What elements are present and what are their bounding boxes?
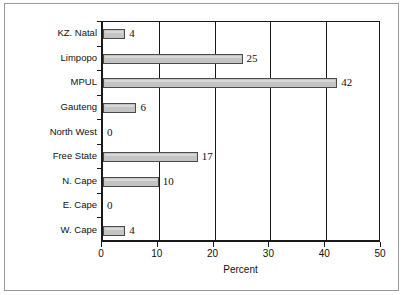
x-axis-tick bbox=[268, 242, 269, 247]
bar bbox=[103, 226, 125, 236]
bar bbox=[103, 29, 125, 39]
plot-area: 4254260171004 bbox=[101, 21, 380, 242]
bar-value-label: 6 bbox=[140, 102, 146, 112]
x-axis-tick bbox=[380, 242, 381, 247]
bar-value-label: 17 bbox=[202, 151, 213, 161]
category-label: KZ. Natal bbox=[11, 27, 97, 38]
category-label: Limpopo bbox=[11, 52, 97, 63]
x-axis-tick-label: 0 bbox=[98, 248, 104, 259]
category-label: N. Cape bbox=[11, 175, 97, 186]
category-label: North West bbox=[11, 126, 97, 137]
bar bbox=[103, 103, 136, 113]
bar-highlight bbox=[105, 154, 196, 156]
bar-highlight bbox=[105, 31, 123, 33]
bar-value-label: 0 bbox=[107, 200, 113, 210]
category-label: W. Cape bbox=[11, 224, 97, 235]
bar-value-label: 10 bbox=[163, 176, 174, 186]
category-axis: KZ. NatalLimpopoMPULGautengNorth WestFre… bbox=[5, 21, 97, 242]
x-axis: Percent 01020304050 bbox=[101, 242, 380, 282]
x-axis-tick bbox=[101, 242, 102, 247]
bar-highlight bbox=[105, 105, 134, 107]
bar bbox=[103, 54, 243, 64]
bar bbox=[103, 78, 337, 88]
x-axis-tick bbox=[157, 242, 158, 247]
x-axis-title: Percent bbox=[101, 264, 380, 275]
x-axis-tick-label: 50 bbox=[374, 248, 385, 259]
category-label: MPUL bbox=[11, 76, 97, 87]
figure-border: KZ. NatalLimpopoMPULGautengNorth WestFre… bbox=[4, 3, 399, 291]
bar-highlight bbox=[105, 179, 157, 181]
gridline bbox=[270, 22, 271, 240]
bar-highlight bbox=[105, 56, 241, 58]
category-label: E. Cape bbox=[11, 199, 97, 210]
x-axis-tick bbox=[324, 242, 325, 247]
x-axis-tick-label: 30 bbox=[263, 248, 274, 259]
bar-value-label: 4 bbox=[129, 28, 135, 38]
gridline bbox=[326, 22, 327, 240]
bar-value-label: 4 bbox=[129, 225, 135, 235]
bar-highlight bbox=[105, 228, 123, 230]
bar-highlight bbox=[105, 80, 335, 82]
category-label: Free State bbox=[11, 150, 97, 161]
x-axis-tick-label: 40 bbox=[319, 248, 330, 259]
x-axis-tick-label: 10 bbox=[151, 248, 162, 259]
bar-value-label: 42 bbox=[341, 77, 352, 87]
bar bbox=[103, 152, 198, 162]
bar-value-label: 0 bbox=[107, 127, 113, 137]
bar-value-label: 25 bbox=[247, 53, 258, 63]
x-axis-tick bbox=[213, 242, 214, 247]
category-label: Gauteng bbox=[11, 101, 97, 112]
bar bbox=[103, 177, 159, 187]
chart-figure: KZ. NatalLimpopoMPULGautengNorth WestFre… bbox=[0, 0, 403, 295]
x-axis-tick-label: 20 bbox=[207, 248, 218, 259]
